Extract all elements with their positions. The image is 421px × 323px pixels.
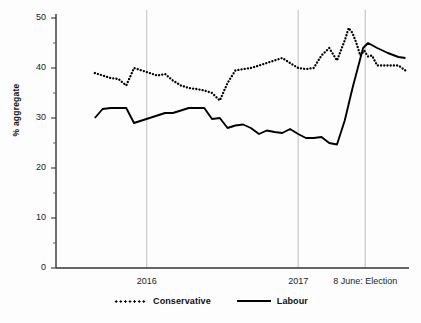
- y-axis-tick-label: 20: [20, 162, 46, 172]
- legend-swatch-solid-icon: [237, 300, 271, 302]
- y-axis-tick-label: 0: [20, 262, 46, 272]
- x-axis-tick-label: 8 June: Election: [333, 276, 397, 286]
- x-axis-tick-label: 2017: [288, 276, 308, 286]
- chart-legend: Conservative Labour: [0, 296, 421, 306]
- y-axis-tick-label: 50: [20, 12, 46, 22]
- x-axis-tick-label: 2016: [137, 276, 157, 286]
- y-axis-title: % aggregate: [11, 60, 21, 160]
- y-axis-tick-label: 30: [20, 112, 46, 122]
- legend-label-conservative: Conservative: [153, 296, 211, 306]
- y-axis-tick-label: 40: [20, 62, 46, 72]
- chart-plot-area: [0, 0, 421, 323]
- legend-label-labour: Labour: [277, 296, 308, 306]
- legend-swatch-dotted-icon: [113, 300, 147, 303]
- chart-container: % aggregate Conservative Labour 20162017…: [0, 0, 421, 323]
- y-axis-tick-label: 10: [20, 212, 46, 222]
- series-line-labour: [95, 43, 406, 145]
- legend-item-labour[interactable]: Labour: [237, 296, 308, 306]
- legend-item-conservative[interactable]: Conservative: [113, 296, 211, 306]
